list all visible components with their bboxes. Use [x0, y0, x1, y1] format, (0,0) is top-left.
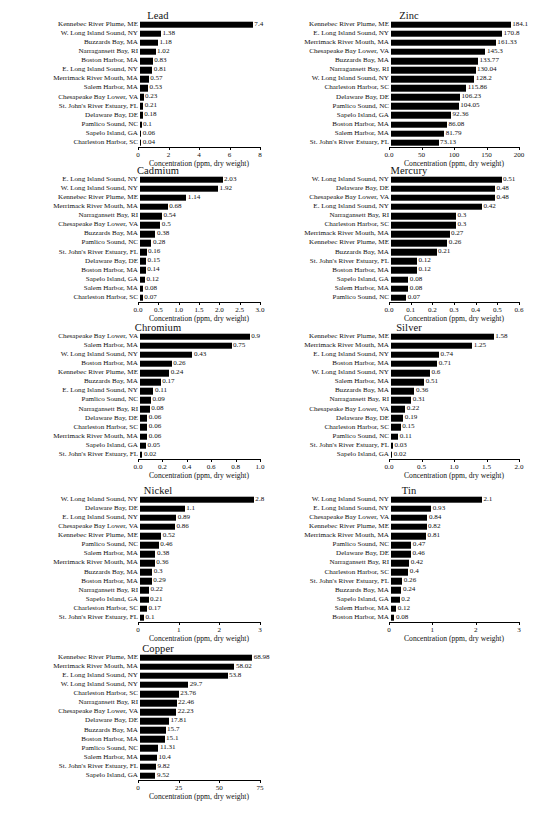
bar-row: Salem Harbor, MA81.79	[273, 129, 541, 138]
bar-value-label: 81.79	[444, 130, 461, 138]
bar-value-label: 92.36	[451, 112, 468, 120]
category-label: Delaware Bay, DE	[2, 258, 140, 266]
bar-value-label: 0.68	[168, 203, 182, 211]
axis-line	[138, 459, 260, 460]
category-label: Salem Harbor, MA	[2, 754, 140, 762]
bar	[140, 772, 155, 779]
bar-row: Sapelo Island, GA9.52	[2, 771, 270, 780]
axis-tick	[454, 459, 455, 462]
bar	[140, 745, 158, 752]
bar-track: 0.09	[140, 396, 270, 405]
bar-track: 86.08	[391, 120, 541, 129]
bar-track: 0.3	[391, 211, 541, 220]
bar-row: Salem Harbor, MA0.53	[2, 84, 270, 93]
bar-row: Pamlico Sound, NC0.09	[2, 396, 270, 405]
axis-tick	[411, 302, 412, 305]
bar-track: 0.21	[140, 102, 270, 111]
bar-row: E. Long Island Sound, NY0.81	[2, 65, 270, 74]
bar-track: 0.1	[140, 613, 270, 622]
bar-track: 9.82	[140, 762, 270, 771]
bar-track: 15.7	[140, 726, 270, 735]
bar-value-label: 0.36	[414, 387, 428, 395]
axis-tick-label: 0.6	[207, 463, 216, 471]
bar-value-label: 23.76	[179, 690, 196, 698]
bar-row: W. Long Island Sound, NY128.2	[273, 75, 541, 84]
axis-tick-label: 0.6	[515, 306, 524, 314]
plot-area-mercury: W. Long Island Sound, NY0.51Delaware Bay…	[273, 175, 541, 322]
bar	[391, 67, 476, 74]
bar	[391, 433, 398, 440]
bar	[140, 379, 161, 386]
bar-value-label: 0.07	[143, 294, 157, 302]
bar-row: Charleston Harbor, SC0.3	[273, 220, 541, 229]
bar-track: 53.8	[140, 671, 270, 680]
category-label: Sapelo Island, GA	[2, 596, 140, 604]
bar-track: 81.79	[391, 129, 541, 138]
bar-row: Sapelo Island, GA0.02	[273, 450, 541, 459]
bar-row: Charleston Harbor, SC115.86	[273, 84, 541, 93]
category-label: Salem Harbor, MA	[273, 285, 391, 293]
bar	[140, 213, 162, 220]
bar-track: 29.7	[140, 680, 270, 689]
category-label: Salem Harbor, MA	[2, 342, 140, 350]
bar	[140, 663, 234, 670]
category-label: E. Long Island Sound, NY	[273, 505, 391, 513]
bar-value-label: 68.98	[252, 654, 269, 662]
bar-value-label: 0.93	[431, 505, 445, 513]
bar-value-label: 0.51	[424, 378, 438, 386]
category-label: Delaware Bay, DE	[2, 415, 140, 423]
bar-row: Narragansett Bay, RI0.22	[2, 586, 270, 595]
bar-value-label: 1.14	[186, 194, 200, 202]
bar-value-label: 0.18	[143, 112, 157, 120]
bar-row: Salem Harbor, MA0.08	[273, 284, 541, 293]
bar	[391, 388, 414, 395]
bar-row: Delaware Bay, DE0.15	[2, 257, 270, 266]
axis-tick-label: 3.0	[256, 306, 265, 314]
bar-value-label: 0.24	[401, 587, 415, 595]
bar-row: Narragansett Bay, RI0.08	[2, 405, 270, 414]
bar-row: Buzzards Bay, MA0.3	[2, 568, 270, 577]
category-label: W. Long Island Sound, NY	[273, 176, 391, 184]
bar-value-label: 0.75	[232, 342, 246, 350]
plot-area-nickel: W. Long Island Sound, NY2.8Delaware Bay,…	[2, 495, 270, 642]
bar-value-label: 0.2	[400, 596, 410, 604]
bar	[140, 240, 151, 247]
bar-value-label: 1.58	[494, 333, 508, 341]
axis-tick	[219, 780, 220, 783]
category-label: Delaware Bay, DE	[273, 94, 391, 102]
bar	[391, 94, 460, 101]
bar-row: St. John's River Estuary, FL0.1	[2, 613, 270, 622]
axis-tick-label: 4	[197, 151, 201, 159]
bar-track: 7.4	[140, 20, 270, 29]
bar-track: 17.81	[140, 717, 270, 726]
bar-row: Pamlico Sound, NC0.07	[273, 293, 541, 302]
category-label: Boston Harbor, MA	[2, 267, 140, 275]
axis-tick	[389, 622, 390, 625]
bar-row: St. John's River Estuary, FL9.82	[2, 762, 270, 771]
bar-track: 0.08	[391, 613, 541, 622]
bar-track: 0.21	[391, 248, 541, 257]
bar-value-label: 0.48	[495, 194, 509, 202]
axis-tick	[476, 302, 477, 305]
category-label: W. Long Island Sound, NY	[273, 369, 391, 377]
category-label: Salem Harbor, MA	[273, 605, 391, 613]
axis-tick	[432, 622, 433, 625]
bar	[140, 524, 175, 531]
axis-tick-label: 1.0	[450, 463, 459, 471]
category-label: Boston Harbor, MA	[2, 578, 140, 586]
bar-row: Charleston Harbor, SC0.04	[2, 138, 270, 147]
category-label: Sapelo Island, GA	[2, 130, 140, 138]
bar-track: 0.12	[391, 257, 541, 266]
bar-value-label: 1.18	[158, 39, 172, 47]
bar-value-label: 0.52	[161, 532, 175, 540]
category-label: W. Long Island Sound, NY	[2, 185, 140, 193]
bar	[391, 276, 408, 283]
axis-tick	[162, 459, 163, 462]
bar-track: 130.04	[391, 65, 541, 74]
bar	[391, 204, 482, 211]
bar-track: 22.23	[140, 708, 270, 717]
bar-track: 0.08	[140, 284, 270, 293]
category-label: W. Long Island Sound, NY	[2, 30, 140, 38]
bar	[391, 194, 495, 201]
bar-row: Delaware Bay, DE0.48	[273, 184, 541, 193]
